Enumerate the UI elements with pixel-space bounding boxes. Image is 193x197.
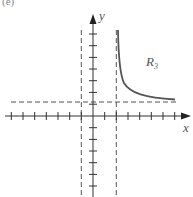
y-axis-label: y: [97, 8, 105, 23]
y-axis-arrow-icon: [90, 14, 97, 24]
x-axis-arrow-icon: [181, 113, 191, 120]
x-axis-label: x: [182, 120, 189, 135]
y-axis: [89, 22, 97, 197]
region-label-subscript: 3: [153, 62, 158, 71]
coordinate-diagram: (e) x: [0, 0, 193, 197]
region-label-main: R: [145, 54, 154, 69]
x-axis: [5, 112, 184, 120]
part-label: (e): [2, 0, 15, 8]
region-label: R3: [145, 54, 158, 71]
